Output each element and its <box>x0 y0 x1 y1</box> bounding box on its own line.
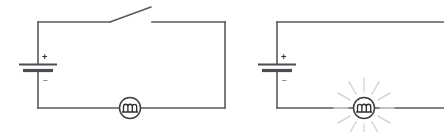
right-circuit: + – <box>258 22 444 132</box>
battery-icon-right <box>258 65 296 71</box>
battery-plus-label-right: + <box>281 52 286 62</box>
lamp-icon-right <box>354 98 375 119</box>
circuit-diagram-canvas: + – + <box>0 0 444 132</box>
left-circuit: + – <box>19 7 225 119</box>
battery-minus-label-left: – <box>43 75 48 84</box>
lamp-icon-left <box>120 98 141 119</box>
battery-plus-label-left: + <box>42 52 47 62</box>
battery-icon-left <box>19 65 57 71</box>
switch-blade-icon[interactable] <box>110 7 151 22</box>
battery-minus-label-right: – <box>282 75 287 84</box>
